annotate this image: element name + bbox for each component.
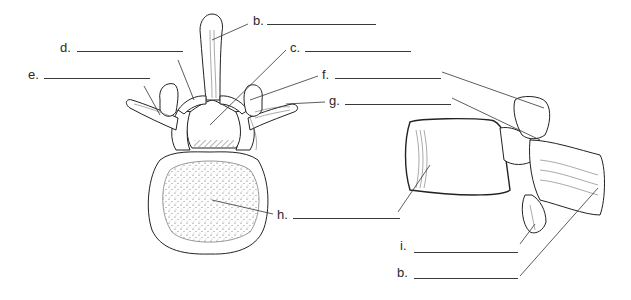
label-letter: e. xyxy=(28,68,39,81)
answer-blank-h[interactable] xyxy=(293,218,400,219)
label-letter: b. xyxy=(253,14,264,27)
answer-blank-d[interactable] xyxy=(77,51,183,52)
lateral-view-figure xyxy=(406,96,605,232)
superior-view-figure xyxy=(126,14,297,254)
answer-blank-i[interactable] xyxy=(414,252,518,253)
label-letter: g. xyxy=(329,94,340,107)
answer-blank-b[interactable] xyxy=(267,24,376,25)
answer-blank-e[interactable] xyxy=(44,78,150,79)
foramen-hatch xyxy=(194,140,234,147)
label-letter: h. xyxy=(277,208,288,221)
answer-blank-b-lateral[interactable] xyxy=(414,278,518,279)
label-letter: d. xyxy=(60,41,71,54)
answer-blank-c[interactable] xyxy=(305,51,411,52)
lateral-vertebral-body xyxy=(406,119,511,195)
answer-blank-f[interactable] xyxy=(335,78,441,79)
label-letter: c. xyxy=(290,41,300,54)
answer-blank-g[interactable] xyxy=(345,104,451,105)
diagram-canvas: b. c. d. e. f. g. h. i. b. xyxy=(0,0,631,300)
vertebra-illustrations xyxy=(0,0,631,300)
label-letter: b. xyxy=(397,266,408,279)
cancellous-bone xyxy=(163,161,259,242)
right-superior-articular-process xyxy=(244,85,262,117)
label-letter: f. xyxy=(322,68,329,81)
left-superior-articular-process xyxy=(160,84,178,117)
spinous-process xyxy=(200,14,223,100)
label-letter: i. xyxy=(400,239,407,252)
